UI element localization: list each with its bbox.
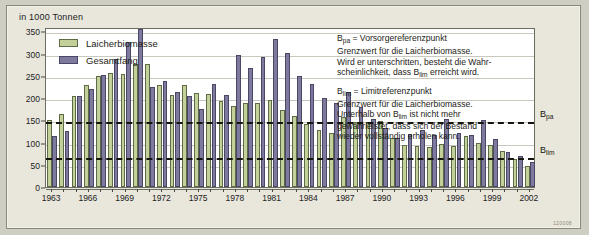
y-axis: 050100150200250300350 xyxy=(7,28,45,188)
bar-spawning-biomass xyxy=(84,85,89,187)
unit-title: in 1000 Tonnen xyxy=(19,12,83,22)
x-tick-label-1993: 1993 xyxy=(409,193,428,203)
bar-group xyxy=(279,29,291,187)
x-tick-mark-1982 xyxy=(284,189,285,192)
bar-total-catch xyxy=(52,136,57,187)
bpa-description: Grenzwert für die Laicherbiomasse. Wird … xyxy=(337,46,577,78)
x-tick-label-1975: 1975 xyxy=(189,193,208,203)
y-tick-label-350: 350 xyxy=(6,27,40,37)
x-tick-mark-1979 xyxy=(247,189,248,192)
bar-spawning-biomass xyxy=(292,116,297,187)
y-tick-label-150: 150 xyxy=(6,116,40,126)
bar-spawning-biomass xyxy=(170,95,175,187)
legend-swatch-total-catch xyxy=(59,56,78,64)
bar-total-catch xyxy=(77,96,82,187)
bar-spawning-biomass xyxy=(427,147,432,187)
bar-group xyxy=(267,29,279,187)
legend-item-spawning-biomass: Laicherbiomasse xyxy=(59,36,158,50)
blim-line-subscript: lim xyxy=(546,149,554,156)
y-tick-label-200: 200 xyxy=(6,94,40,104)
x-tick-mark-1991 xyxy=(394,189,395,192)
x-tick-mark-1976 xyxy=(210,189,211,192)
bar-total-catch xyxy=(89,89,94,187)
blim-description: Grenzwert für die Laicherbiomasse. Unter… xyxy=(337,99,577,142)
x-tick-mark-1972 xyxy=(161,189,162,192)
x-tick-label-1981: 1981 xyxy=(262,193,281,203)
x-tick-mark-1998 xyxy=(480,189,481,192)
bar-group xyxy=(242,29,254,187)
x-tick-label-1966: 1966 xyxy=(78,193,97,203)
bpa-symbol: B xyxy=(337,33,343,43)
x-tick-mark-1986 xyxy=(333,189,334,192)
y-tick-label-50: 50 xyxy=(6,161,40,171)
bpa-line-1: Grenzwert für die Laicherbiomasse. xyxy=(337,46,577,56)
x-tick-label-2002: 2002 xyxy=(519,193,538,203)
bar-group xyxy=(254,29,266,187)
x-tick-mark-1963 xyxy=(51,189,52,192)
bar-total-catch xyxy=(101,75,106,187)
blim-heading-text: = Limitreferenzpunkt xyxy=(351,86,432,96)
bar-spawning-biomass xyxy=(47,120,52,187)
bar-spawning-biomass xyxy=(500,151,505,187)
bar-group xyxy=(303,29,315,187)
bar-spawning-biomass xyxy=(402,145,407,187)
x-tick-mark-1969 xyxy=(125,189,126,192)
x-tick-mark-1994 xyxy=(431,189,432,192)
bar-total-catch xyxy=(236,55,241,187)
bar-spawning-biomass xyxy=(157,85,162,187)
blim-symbol: B xyxy=(337,86,343,96)
bpa-line-3-subscript: lim xyxy=(419,71,427,78)
x-tick-mark-1996 xyxy=(455,189,456,192)
x-tick-mark-1975 xyxy=(198,189,199,192)
bpa-heading: Bpa = Vorsorgereferenzpunkt xyxy=(337,33,577,44)
bar-total-catch xyxy=(310,84,315,187)
bar-spawning-biomass xyxy=(243,103,248,187)
bar-spawning-biomass xyxy=(488,145,493,187)
x-tick-label-1999: 1999 xyxy=(483,193,502,203)
bpa-line-3: scheinlichkeit, dass Blim erreicht wird. xyxy=(337,67,577,78)
x-tick-mark-1988 xyxy=(357,189,358,192)
bar-group xyxy=(193,29,205,187)
x-tick-mark-1993 xyxy=(419,189,420,192)
x-tick-mark-2000 xyxy=(504,189,505,192)
x-tick-mark-2001 xyxy=(517,189,518,192)
y-tick-label-100: 100 xyxy=(6,139,40,149)
bpa-line-3a: scheinlichkeit, dass B xyxy=(337,67,419,77)
bar-spawning-biomass xyxy=(451,146,456,187)
bar-total-catch xyxy=(297,76,302,187)
figure-code: 120008 xyxy=(553,220,572,226)
annotation-block: Bpa = Vorsorgereferenzpunkt Grenzwert fü… xyxy=(337,33,577,149)
x-tick-mark-1997 xyxy=(468,189,469,192)
blim-line-2b: ist nicht mehr xyxy=(407,109,461,119)
x-axis: 1963196619691972197519781981198419871990… xyxy=(45,189,535,209)
bar-spawning-biomass xyxy=(268,100,273,187)
bar-spawning-biomass xyxy=(231,106,236,187)
bar-group xyxy=(205,29,217,187)
x-tick-mark-1989 xyxy=(370,189,371,192)
x-tick-label-1963: 1963 xyxy=(42,193,61,203)
x-tick-mark-1974 xyxy=(186,189,187,192)
x-tick-mark-1995 xyxy=(443,189,444,192)
bar-spawning-biomass xyxy=(525,166,530,187)
legend-label-total-catch: Gesamtfang xyxy=(86,55,138,66)
x-tick-mark-1964 xyxy=(63,189,64,192)
x-tick-mark-2002 xyxy=(529,189,530,192)
x-tick-mark-1985 xyxy=(321,189,322,192)
x-tick-label-1972: 1972 xyxy=(152,193,171,203)
bar-spawning-biomass xyxy=(96,76,101,187)
x-tick-mark-1999 xyxy=(492,189,493,192)
bar-spawning-biomass xyxy=(206,94,211,187)
bar-total-catch xyxy=(322,98,327,187)
legend-item-total-catch: Gesamtfang xyxy=(59,53,158,67)
y-tick-label-0: 0 xyxy=(6,183,40,193)
x-tick-label-1987: 1987 xyxy=(336,193,355,203)
bpa-line-3b: erreicht wird. xyxy=(428,67,480,77)
bar-group xyxy=(169,29,181,187)
bar-spawning-biomass xyxy=(182,85,187,187)
bar-group xyxy=(291,29,303,187)
bar-spawning-biomass xyxy=(108,73,113,187)
bar-spawning-biomass xyxy=(304,124,309,187)
x-tick-mark-1970 xyxy=(137,189,138,192)
bar-spawning-biomass xyxy=(415,146,420,187)
legend-swatch-spawning-biomass xyxy=(59,39,78,47)
